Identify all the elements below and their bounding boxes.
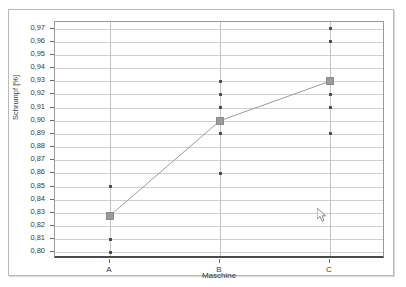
y-tick-label: 0,94	[5, 63, 45, 71]
data-point	[329, 93, 332, 96]
gridline-horizontal	[55, 68, 383, 69]
data-point	[219, 93, 222, 96]
y-tick-label: 0,83	[5, 208, 45, 216]
data-point	[219, 132, 222, 135]
gridline-horizontal	[55, 42, 383, 43]
y-tick-label: 0,96	[5, 37, 45, 45]
y-tick-label: 0,91	[5, 103, 45, 111]
data-point	[329, 106, 332, 109]
data-point	[329, 40, 332, 43]
gridline-horizontal	[55, 252, 383, 253]
y-tick-label: 0,84	[5, 195, 45, 203]
y-tick-label: 0,86	[5, 168, 45, 176]
gridline-horizontal	[55, 213, 383, 214]
y-tick-label: 0,81	[5, 234, 45, 242]
mean-marker-c	[326, 77, 334, 85]
gridline-category-a	[110, 22, 111, 256]
data-point	[219, 172, 222, 175]
x-axis-title: Maschine	[54, 271, 384, 280]
data-point	[219, 80, 222, 83]
x-tick-mark	[109, 259, 110, 263]
y-tick-label: 0,87	[5, 155, 45, 163]
y-tick-label: 0,80	[5, 247, 45, 255]
chart-panel: Schrumpf [%] 0,800,810,820,830,840,850,8…	[8, 9, 394, 276]
gridline-horizontal	[55, 200, 383, 201]
data-point	[109, 185, 112, 188]
gridline-horizontal	[55, 160, 383, 161]
data-point	[219, 106, 222, 109]
gridline-horizontal	[55, 187, 383, 188]
y-tick-label: 0,95	[5, 50, 45, 58]
mean-connecting-line	[55, 22, 383, 256]
mean-marker-a	[106, 212, 114, 220]
mean-marker-b	[216, 117, 224, 125]
gridline-horizontal	[55, 55, 383, 56]
data-point	[329, 132, 332, 135]
y-tick-label: 0,89	[5, 129, 45, 137]
y-tick-label: 0,82	[5, 221, 45, 229]
gridline-horizontal	[55, 239, 383, 240]
y-tick-label: 0,90	[5, 116, 45, 124]
plot-inner	[55, 22, 383, 256]
data-point	[109, 251, 112, 254]
gridline-horizontal	[55, 226, 383, 227]
gridline-horizontal	[55, 29, 383, 30]
plot-area	[54, 21, 384, 258]
data-point	[329, 27, 332, 30]
y-tick-label: 0,88	[5, 142, 45, 150]
y-tick-label: 0,92	[5, 89, 45, 97]
gridline-category-b	[220, 22, 221, 256]
gridline-horizontal	[55, 147, 383, 148]
gridline-category-c	[330, 22, 331, 256]
data-point	[109, 238, 112, 241]
y-tick-label: 0,93	[5, 76, 45, 84]
x-tick-mark	[219, 259, 220, 263]
y-tick-label: 0,85	[5, 182, 45, 190]
chart-window: Schrumpf [%] 0,800,810,820,830,840,850,8…	[0, 0, 406, 287]
y-tick-label: 0,97	[5, 24, 45, 32]
x-tick-mark	[329, 259, 330, 263]
mouse-pointer-icon	[317, 208, 328, 223]
